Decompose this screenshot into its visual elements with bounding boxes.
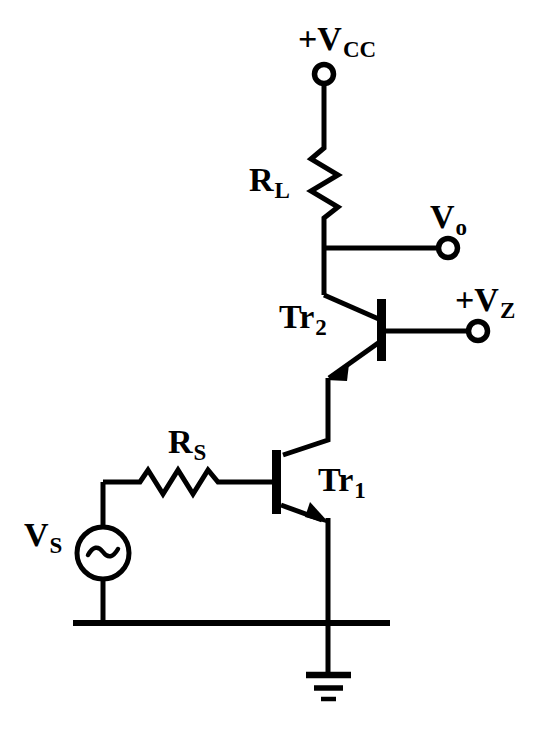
zener-bias-label: +VZ xyxy=(455,283,515,322)
transistor-tr1-label-sub: 1 xyxy=(353,478,366,503)
circuit-schematic-drawing xyxy=(0,0,534,731)
wire-tr2-emitter-to-tr1-collector xyxy=(283,378,328,455)
supply-label-main: +V xyxy=(298,20,342,57)
supply-label: +VCC xyxy=(298,22,376,61)
zener-bias-terminal-node-icon xyxy=(469,322,488,341)
transistor-tr2-label-main: Tr xyxy=(279,298,314,335)
load-resistor-label-main: R xyxy=(249,161,274,198)
output-terminal-node-icon xyxy=(439,239,458,258)
source-resistor-zigzag-icon xyxy=(103,470,224,494)
source-resistor-label-main: R xyxy=(168,423,193,460)
tr2-base-bar-icon xyxy=(377,299,386,361)
source-voltage-label-sub: S xyxy=(49,533,63,558)
ac-source-sine-icon xyxy=(88,548,118,557)
load-resistor-zigzag-icon xyxy=(311,140,338,248)
circuit-diagram-canvas: +VCC RL Vo +VZ Tr2 RS Tr1 VS xyxy=(0,0,534,731)
source-resistor-label: RS xyxy=(168,425,206,464)
load-resistor-label-sub: L xyxy=(274,178,290,203)
zener-bias-label-main: +V xyxy=(455,281,499,318)
transistor-tr1-label-main: Tr xyxy=(318,461,353,498)
output-label-main: V xyxy=(430,198,455,235)
source-resistor-label-sub: S xyxy=(193,440,207,465)
zener-bias-label-sub: Z xyxy=(499,298,515,323)
transistor-tr2-label: Tr2 xyxy=(279,300,327,339)
supply-label-sub: CC xyxy=(342,37,376,62)
transistor-tr2-label-sub: 2 xyxy=(314,315,327,340)
tr2-collector-lead xyxy=(324,295,381,320)
source-voltage-label-main: V xyxy=(24,516,49,553)
tr1-base-bar-icon xyxy=(272,450,281,514)
tr2-emitter-lead xyxy=(329,341,381,378)
output-label-sub: o xyxy=(455,215,468,240)
transistor-tr1-label: Tr1 xyxy=(318,463,366,502)
output-label: Vo xyxy=(430,200,467,239)
supply-terminal-node-icon xyxy=(315,65,334,84)
source-voltage-label: VS xyxy=(24,518,62,557)
load-resistor-label: RL xyxy=(249,163,290,202)
